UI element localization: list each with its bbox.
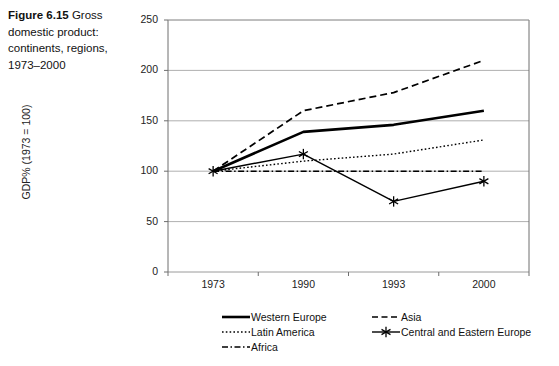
legend-item: Western Europe <box>221 311 371 323</box>
line-chart-svg <box>0 0 559 300</box>
x-tick-label: 2000 <box>454 278 514 290</box>
legend-row: Western EuropeAsia <box>221 309 559 324</box>
series-central-and-eastern-europe <box>209 149 489 207</box>
chart-plot-area: GDP% (1973 = 100) 050100150200250 197319… <box>0 0 559 300</box>
legend-label: Asia <box>401 311 421 323</box>
legend-item: Africa <box>221 341 371 353</box>
chart-legend: Western EuropeAsiaLatin AmericaCentral a… <box>221 309 559 354</box>
legend-label: Western Europe <box>251 311 327 323</box>
x-tick-label: 1973 <box>183 278 243 290</box>
x-tick-label: 1990 <box>273 278 333 290</box>
y-tick-label: 100 <box>124 164 158 176</box>
legend-label: Central and Eastern Europe <box>401 326 531 338</box>
series-line <box>213 154 484 201</box>
y-tick-label: 150 <box>124 114 158 126</box>
legend-key-asterisk-line <box>371 326 401 338</box>
legend-label: Latin America <box>251 326 315 338</box>
legend-key-solid-thick <box>221 311 251 323</box>
legend-key-dash-dot <box>221 341 251 353</box>
y-tick-label: 50 <box>124 215 158 227</box>
legend-row: Latin AmericaCentral and Eastern Europe <box>221 324 559 339</box>
legend-item: Central and Eastern Europe <box>371 326 559 338</box>
series-line <box>213 111 484 171</box>
legend-key-dotted <box>221 326 251 338</box>
legend-item: Asia <box>371 311 559 323</box>
y-tick-label: 200 <box>124 63 158 75</box>
y-tick-label: 0 <box>124 265 158 277</box>
legend-item: Latin America <box>221 326 371 338</box>
legend-label: Africa <box>251 341 278 353</box>
legend-row: Africa <box>221 339 559 354</box>
series-western-europe <box>213 111 484 171</box>
legend-key-dashed <box>371 311 401 323</box>
y-tick-label: 250 <box>124 13 158 25</box>
x-tick-label: 1993 <box>364 278 424 290</box>
figure-container: Figure 6.15 Gross domestic product: cont… <box>0 0 559 366</box>
